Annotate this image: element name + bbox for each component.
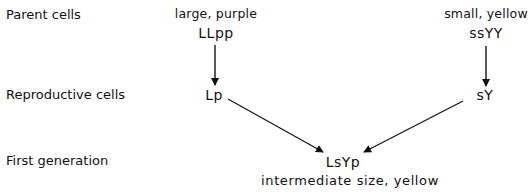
arrow-left-gamete-to-offspring xyxy=(228,99,323,152)
arrow-right-gamete-to-offspring xyxy=(364,101,463,152)
